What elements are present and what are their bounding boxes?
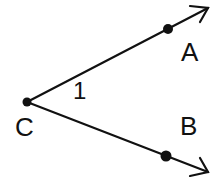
label-c: C	[15, 112, 34, 142]
label-b: B	[180, 111, 197, 141]
label-angle-1: 1	[73, 77, 86, 104]
angle-diagram: A 1 C B	[0, 0, 220, 184]
point-a	[163, 24, 173, 34]
arrowhead-a-icon	[190, 6, 208, 22]
label-a: A	[181, 37, 199, 67]
point-c	[23, 98, 32, 107]
point-b	[161, 151, 172, 162]
